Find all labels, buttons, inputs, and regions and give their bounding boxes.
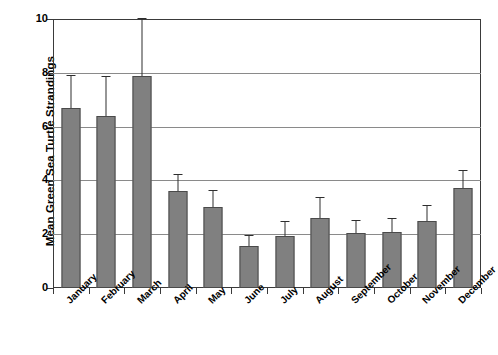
error-bar-stem [391, 219, 392, 231]
bar-group [267, 19, 303, 288]
x-tick-mark [481, 288, 482, 294]
bar [311, 218, 330, 288]
bar-group [445, 19, 481, 288]
error-bar-cap [316, 197, 325, 198]
bar-group [338, 19, 374, 288]
error-bar-cap [280, 221, 289, 222]
bar [61, 108, 80, 288]
bar [204, 207, 223, 288]
bar-group [374, 19, 410, 288]
error-bar-cap [102, 76, 111, 77]
bar-series [53, 19, 481, 288]
x-tick-mark [53, 288, 54, 294]
error-bar-stem [320, 198, 321, 218]
bar-group [410, 19, 446, 288]
y-tick-label: 10 [20, 13, 48, 24]
error-bar-stem [106, 77, 107, 116]
error-bar-stem [284, 222, 285, 235]
bar-group [124, 19, 160, 288]
error-bar-cap [352, 220, 361, 221]
error-bar-stem [463, 171, 464, 188]
error-bar-stem [356, 221, 357, 233]
error-bar-stem [213, 191, 214, 207]
bar-group [231, 19, 267, 288]
error-bar-cap [387, 218, 396, 219]
bar [240, 246, 259, 288]
bar [382, 232, 401, 288]
error-bar-stem [177, 175, 178, 191]
error-bar-cap [459, 170, 468, 171]
bar [168, 191, 187, 288]
y-tick-label: 0 [20, 282, 48, 293]
x-tick-mark [267, 288, 268, 294]
x-tick-mark [124, 288, 125, 294]
y-tick-label: 6 [20, 121, 48, 132]
x-tick-mark [196, 288, 197, 294]
bar-group [53, 19, 89, 288]
error-bar-stem [70, 76, 71, 108]
bar [133, 76, 152, 289]
x-tick-mark [338, 288, 339, 294]
bar [347, 233, 366, 288]
error-bar-cap [245, 235, 254, 236]
bar-group [89, 19, 125, 288]
error-bar-cap [66, 75, 75, 76]
y-tick-label: 2 [20, 228, 48, 239]
error-bar-cap [209, 190, 218, 191]
x-tick-mark [410, 288, 411, 294]
x-tick-mark [160, 288, 161, 294]
bar-group [303, 19, 339, 288]
x-tick-mark [303, 288, 304, 294]
error-bar-stem [142, 19, 143, 75]
bar-group [160, 19, 196, 288]
x-tick-mark [445, 288, 446, 294]
bar [418, 221, 437, 288]
error-bar-cap [423, 205, 432, 206]
x-tick-mark [89, 288, 90, 294]
bar [275, 236, 294, 288]
error-bar-stem [427, 206, 428, 221]
x-tick-mark [231, 288, 232, 294]
bar [97, 116, 116, 288]
error-bar-cap [173, 174, 182, 175]
bar-group [196, 19, 232, 288]
y-tick-label: 4 [20, 174, 48, 185]
y-tick-label: 8 [20, 67, 48, 78]
error-bar-cap [138, 18, 147, 19]
x-tick-mark [374, 288, 375, 294]
error-bar-stem [249, 236, 250, 247]
